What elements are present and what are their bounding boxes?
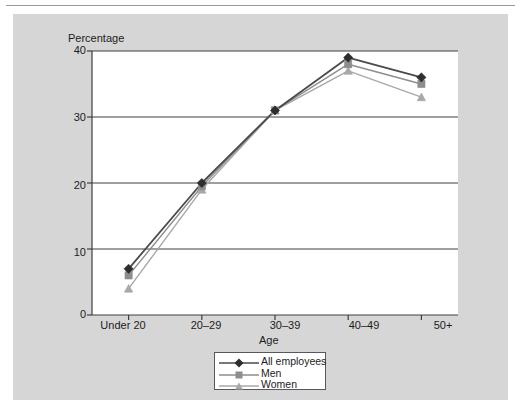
series-line-men	[129, 64, 422, 275]
legend-entry-women: Women	[215, 380, 327, 392]
figure-root: Percentage Age 40 30 20 10 0 Under 20 20…	[0, 0, 521, 418]
series-line-women	[129, 71, 422, 289]
legend-swatch-all-employees	[219, 357, 259, 369]
legend: All employees Men Women	[214, 352, 326, 390]
legend-label-women: Women	[261, 378, 297, 390]
series-line-all-employees	[129, 58, 422, 269]
axis-lines-group	[87, 51, 458, 320]
gridlines-group	[92, 51, 458, 249]
series-markers-group	[124, 53, 426, 292]
legend-label-all-employees: All employees	[261, 355, 326, 367]
series-lines-group	[129, 58, 422, 289]
legend-swatch-women	[219, 380, 259, 392]
data-point-women-4	[417, 93, 425, 101]
